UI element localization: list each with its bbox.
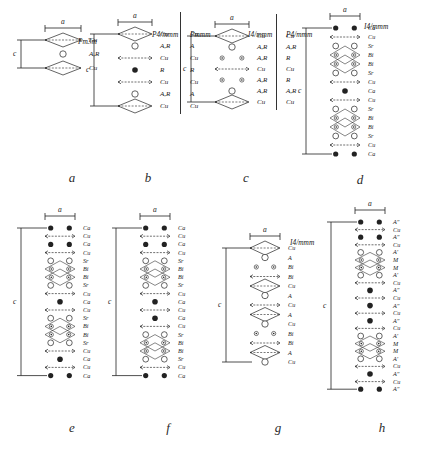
space-group-b-0: P4/mmm xyxy=(152,30,178,39)
dimension-label-a-h: a xyxy=(368,199,372,208)
layer-label-g-3: Bi xyxy=(288,274,294,280)
layer-label-e-16: Ca xyxy=(83,356,90,362)
dimension-label-a-d: a xyxy=(343,5,347,14)
dimension-label-a-b: a xyxy=(133,11,137,20)
layer-label-g-5: A xyxy=(288,293,292,299)
layer-label-b-4: Cu xyxy=(160,79,168,86)
layer-label-h-14: Cu xyxy=(393,325,400,331)
layer-label-b-6: Cu xyxy=(160,103,168,110)
layer-label-g-6: Cu xyxy=(288,302,295,308)
layer-label-d-4: Bi xyxy=(368,61,374,67)
layer-label-e-6: Bi xyxy=(83,274,89,280)
layer-label2-c-0: Cu xyxy=(286,33,294,40)
layer-label-f-12: Cu xyxy=(178,323,185,329)
lattice-drawing-a xyxy=(0,0,440,449)
layer-label-g-0: Cu xyxy=(288,245,295,251)
layer-label-h-16: M xyxy=(393,341,398,347)
dimension-label-c-a: c xyxy=(13,49,16,58)
layer-label-h-10: Cu xyxy=(393,295,400,301)
layer-label-e-0: Ca xyxy=(83,225,90,231)
layer-label-f-6: Bi xyxy=(178,274,184,280)
dimension-label-c-h: c xyxy=(323,301,326,310)
layer-label-h-5: M xyxy=(393,257,398,263)
panel-caption-d: d xyxy=(350,172,370,188)
layer-label-g-8: Cu xyxy=(288,321,295,327)
lattice-drawing-d xyxy=(0,0,440,449)
layer-label2-c-6: Cu xyxy=(286,99,294,106)
layer-label-h-22: A″ xyxy=(393,386,399,392)
dimension-label-c-d: c xyxy=(298,86,301,95)
layer-label2-b-5: A xyxy=(190,91,194,98)
layer-label-e-5: Bi xyxy=(83,266,89,272)
layer-label2-b-6: Cu xyxy=(190,103,198,110)
layer-label-h-4: A′ xyxy=(393,249,398,255)
layer-label-b-5: A,R xyxy=(160,91,170,98)
layer-label2-b-0: Cu xyxy=(190,31,198,38)
layer-label-f-15: Bi xyxy=(178,348,184,354)
lattice-drawing-e xyxy=(0,0,440,449)
layer-label-g-2: Bi xyxy=(288,264,294,270)
layer-label-f-13: Sr xyxy=(178,332,184,338)
layer-label-b-0: Cu xyxy=(160,31,168,38)
layer-label-e-11: Sr xyxy=(83,315,89,321)
layer-label-c-2: A,R xyxy=(257,55,267,62)
layer-label-d-5: Sr xyxy=(368,70,374,76)
panel-caption-h: h xyxy=(372,420,392,436)
dimension-label-a-a: a xyxy=(61,17,65,26)
layer-label-e-10: Cu xyxy=(83,307,90,313)
layer-label-f-11: Ca xyxy=(178,315,185,321)
layer-label-d-13: Cu xyxy=(368,142,375,148)
panel-g: acI4/mmmCuABiBiCuACuACuBiBiACug xyxy=(0,0,440,449)
dimension-label-a-f: a xyxy=(153,205,157,214)
dimension-label-a-c: a xyxy=(230,13,234,22)
space-group-b-1: Pmmm xyxy=(190,30,211,39)
layer-label2-b-4: Cu xyxy=(190,79,198,86)
layer-label-f-1: Cu xyxy=(178,233,185,239)
layer-label-c-0: Cu xyxy=(257,33,265,40)
layer-label2-c-3: Cu xyxy=(286,66,294,73)
crystal-structure-figure: acPm3mCuA,RCuaacP4/mmmPmmmCuA,RCuRCuA,RC… xyxy=(0,0,440,449)
layer-label-f-0: Ca xyxy=(178,225,185,231)
layer-label-d-7: Ca xyxy=(368,88,375,94)
layer-label2-b-1: A xyxy=(190,43,194,50)
panel-caption-b: b xyxy=(138,170,158,186)
layer-label-h-9: A″ xyxy=(393,287,399,293)
label-column-divider-c xyxy=(276,14,277,110)
panel-d: acI4/mmmCaCuSrBiBiSrCuCaCuSrBiBiSrCuCad xyxy=(0,0,440,449)
layer-label-c-1: A,R xyxy=(257,44,267,51)
layer-label-a-2: Cu xyxy=(89,65,97,72)
layer-label-d-3: Bi xyxy=(368,52,374,58)
layer-label-h-1: Cu xyxy=(393,227,400,233)
layer-label-h-18: A′ xyxy=(393,356,398,362)
layer-label-e-13: Bi xyxy=(83,332,89,338)
layer-label-e-4: Sr xyxy=(83,258,89,264)
panel-b: acP4/mmmPmmmCuA,RCuRCuA,RCuCuACuRCuACub xyxy=(0,0,440,449)
layer-label-b-2: Cu xyxy=(160,55,168,62)
layer-label-g-7: A xyxy=(288,312,292,318)
layer-label-h-13: A″ xyxy=(393,318,399,324)
space-group-c-0: I4/mmm xyxy=(248,30,272,39)
lattice-drawing-c xyxy=(0,0,440,449)
layer-label-h-15: A′ xyxy=(393,333,398,339)
layer-label-d-12: Sr xyxy=(368,133,374,139)
layer-label-g-4: Cu xyxy=(288,283,295,289)
layer-label-h-6: M xyxy=(393,265,398,271)
layer-label2-c-4: R xyxy=(286,77,290,84)
layer-label-e-18: Ca xyxy=(83,373,90,379)
layer-label-c-5: A,R xyxy=(257,88,267,95)
layer-label-e-8: Cu xyxy=(83,291,90,297)
layer-label-d-1: Cu xyxy=(368,34,375,40)
layer-label-d-0: Ca xyxy=(368,25,375,31)
space-group-c-1: P4/mmm xyxy=(286,30,312,39)
lattice-drawing-f xyxy=(0,0,440,449)
panel-caption-g: g xyxy=(268,420,288,436)
layer-label-e-7: Sr xyxy=(83,282,89,288)
layer-label-e-17: Cu xyxy=(83,364,90,370)
dimension-label-c-e: c xyxy=(13,297,16,306)
layer-label-f-7: Sr xyxy=(178,282,184,288)
layer-label-b-3: R xyxy=(160,67,164,74)
layer-label-e-1: Cu xyxy=(83,233,90,239)
layer-label2-b-2: Cu xyxy=(190,55,198,62)
panel-caption-c: c xyxy=(236,170,256,186)
layer-label-g-12: Cu xyxy=(288,359,295,365)
